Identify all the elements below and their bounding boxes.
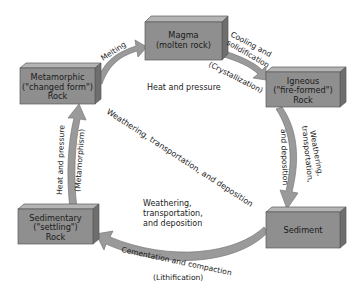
inner-heat-pressure-label: Heat and pressure xyxy=(147,83,221,92)
node-igneous: Igneous ("fire-formed") Rock xyxy=(266,67,346,107)
box-side xyxy=(340,207,346,248)
sedimentary-label-line2: ("settling") xyxy=(33,222,78,232)
metamorphic-label-line2: ("changed form") xyxy=(22,82,93,92)
box-side xyxy=(95,63,101,104)
igneous-sediment-label-line3: and deposition xyxy=(279,129,290,186)
inner-block-line3: and deposition xyxy=(143,219,202,228)
inner-block-line1: Weathering, xyxy=(143,199,192,208)
metamorphism-label-line1: Heat and pressure xyxy=(55,125,66,196)
node-sedimentary: Sedimentary ("settling") Rock xyxy=(18,204,99,244)
igneous-label-line1: Igneous xyxy=(287,76,319,86)
sediment-label-line1: Sediment xyxy=(283,225,323,235)
box-side xyxy=(222,16,228,60)
box-top xyxy=(20,63,101,68)
box-top xyxy=(266,67,346,72)
lithification-label: (Lithification) xyxy=(153,273,203,282)
box-side xyxy=(93,204,99,244)
igneous-label-line3: Rock xyxy=(293,95,313,105)
sedimentary-label-line3: Rock xyxy=(46,232,66,242)
arrow-lithification xyxy=(96,227,268,261)
inner-diagonal-label: Weathering, transportation, and depositi… xyxy=(105,107,255,209)
box-top xyxy=(18,204,99,209)
sedimentary-label-line1: Sedimentary xyxy=(29,213,82,223)
igneous-label-line2: ("fire-formed") xyxy=(273,85,333,95)
box-top xyxy=(266,207,346,212)
box-side xyxy=(340,67,346,107)
magma-label-line1: Magma xyxy=(168,30,198,40)
metamorphic-label-line1: Metamorphic xyxy=(31,72,85,82)
magma-label-line2: (molten rock) xyxy=(156,40,211,50)
metamorphic-label-line3: Rock xyxy=(48,91,68,101)
node-metamorphic: Metamorphic ("changed form") Rock xyxy=(20,63,101,104)
rock-cycle-diagram: Magma (molten rock) Metamorphic ("change… xyxy=(0,0,363,296)
diagram-canvas: Magma (molten rock) Metamorphic ("change… xyxy=(0,0,363,296)
node-sediment: Sediment xyxy=(266,207,346,248)
node-magma: Magma (molten rock) xyxy=(145,16,228,60)
inner-block-line2: transportation, xyxy=(143,209,203,218)
box-top xyxy=(145,16,228,22)
